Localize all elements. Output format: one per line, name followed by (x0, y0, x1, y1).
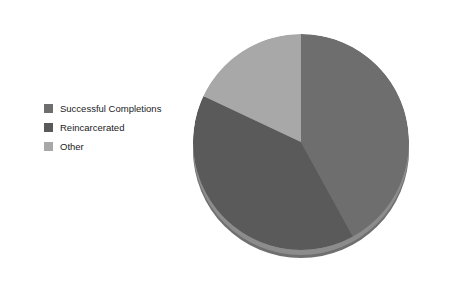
legend-swatch-icon (44, 142, 53, 151)
chart-legend: Successful Completions Reincarcerated Ot… (44, 99, 194, 156)
legend-item-other[interactable]: Other (44, 137, 194, 156)
legend-item-successful-completions[interactable]: Successful Completions (44, 99, 194, 118)
legend-item-label: Other (60, 141, 84, 152)
legend-item-label: Reincarcerated (60, 122, 124, 133)
pie-graphic (193, 34, 409, 258)
legend-item-reincarcerated[interactable]: Reincarcerated (44, 118, 194, 137)
pie-slices-svg (193, 34, 409, 250)
legend-swatch-icon (44, 104, 53, 113)
legend-swatch-icon (44, 123, 53, 132)
pie-chart-figure: Successful Completions Reincarcerated Ot… (0, 0, 458, 285)
pie-slices-container (193, 34, 409, 250)
legend-item-label: Successful Completions (60, 103, 161, 114)
